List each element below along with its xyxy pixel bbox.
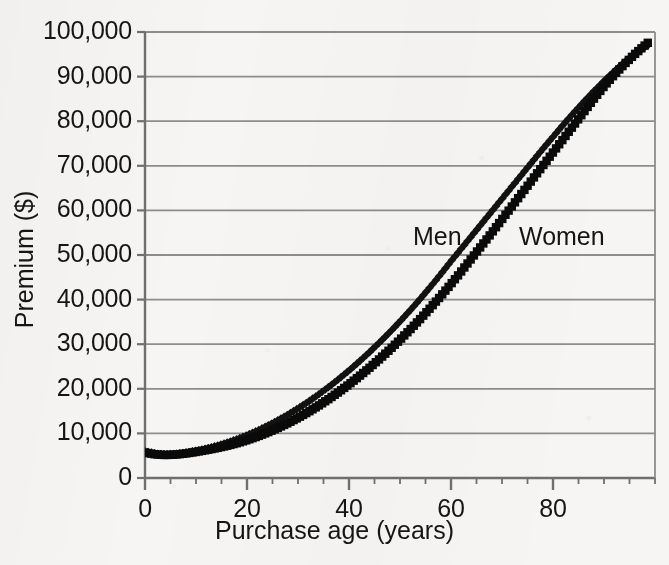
y-tick-label: 20,000 <box>57 373 132 402</box>
y-tick-label: 0 <box>118 462 132 491</box>
series-label-men: Men <box>413 222 462 251</box>
y-tick-label: 40,000 <box>57 284 132 313</box>
y-tick-label: 70,000 <box>57 150 132 179</box>
y-tick-label: 50,000 <box>57 239 132 268</box>
y-tick-label: 90,000 <box>57 61 132 90</box>
y-tick-label: 30,000 <box>57 328 132 357</box>
y-axis-title: Premium ($) <box>10 160 39 360</box>
series-label-women: Women <box>519 222 605 251</box>
chart-figure: 010,00020,00030,00040,00050,00060,00070,… <box>0 0 669 565</box>
x-tick-marks <box>145 478 655 490</box>
y-tick-label: 80,000 <box>57 105 132 134</box>
y-tick-label: 10,000 <box>57 417 132 446</box>
data-marker <box>644 39 652 47</box>
y-tick-label: 60,000 <box>57 194 132 223</box>
x-axis-title: Purchase age (years) <box>0 516 669 545</box>
y-tick-label: 100,000 <box>43 16 132 45</box>
